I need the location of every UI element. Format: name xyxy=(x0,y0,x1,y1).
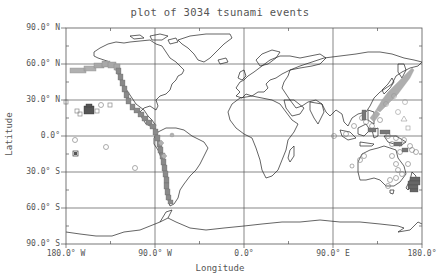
cluster-hawaii xyxy=(84,104,94,114)
minor-ticks xyxy=(61,28,422,248)
coast-uk xyxy=(238,70,246,80)
coast-australia xyxy=(358,146,406,186)
cluster-tonga-kermadec xyxy=(408,177,420,192)
isolated-events xyxy=(64,100,138,171)
coast-scandinavia xyxy=(256,50,280,66)
grid-lines xyxy=(66,28,422,244)
coast-tasmania xyxy=(390,190,394,194)
coast-greenland xyxy=(178,34,232,62)
coast-madagascar xyxy=(288,146,294,162)
cluster-aleutians xyxy=(70,61,120,73)
coast-india xyxy=(310,102,324,124)
map-plot xyxy=(0,0,440,280)
coast-africa xyxy=(228,96,298,178)
coast-iceland xyxy=(218,58,228,64)
coast-europe xyxy=(236,54,326,98)
